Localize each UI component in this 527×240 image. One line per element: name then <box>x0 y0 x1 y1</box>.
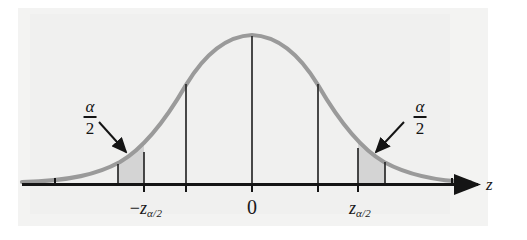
normal-curve-plot <box>0 0 527 240</box>
axis-name-z: z <box>486 175 493 195</box>
left-alpha-numerator: α <box>84 98 97 116</box>
negative-sign: − <box>130 198 140 218</box>
normal-curve-figure: α 2 α 2 −zα/2 0 zα/2 z <box>0 0 527 240</box>
right-fraction-bar <box>414 116 427 118</box>
axis-label-negative-z-alpha-half: −zα/2 <box>130 198 162 219</box>
axis-label-zero: 0 <box>247 196 257 219</box>
left-alpha-annotation-arrow <box>99 122 126 152</box>
right-alpha-annotation-arrow <box>376 122 404 152</box>
vertical-drop-lines <box>118 36 385 184</box>
right-alpha-denominator: 2 <box>414 119 427 137</box>
axis-label-z-alpha-half: zα/2 <box>349 198 371 219</box>
right-alpha-over-two-label: α 2 <box>414 98 427 137</box>
z-symbol: z <box>349 198 356 218</box>
left-alpha-over-two-label: α 2 <box>84 98 97 137</box>
left-fraction-bar <box>84 116 97 118</box>
alpha-half-subscript: α/2 <box>356 207 371 219</box>
left-alpha-denominator: 2 <box>84 119 97 137</box>
right-alpha-numerator: α <box>414 98 427 116</box>
zero-symbol: 0 <box>247 196 257 218</box>
alpha-half-subscript: α/2 <box>147 207 162 219</box>
